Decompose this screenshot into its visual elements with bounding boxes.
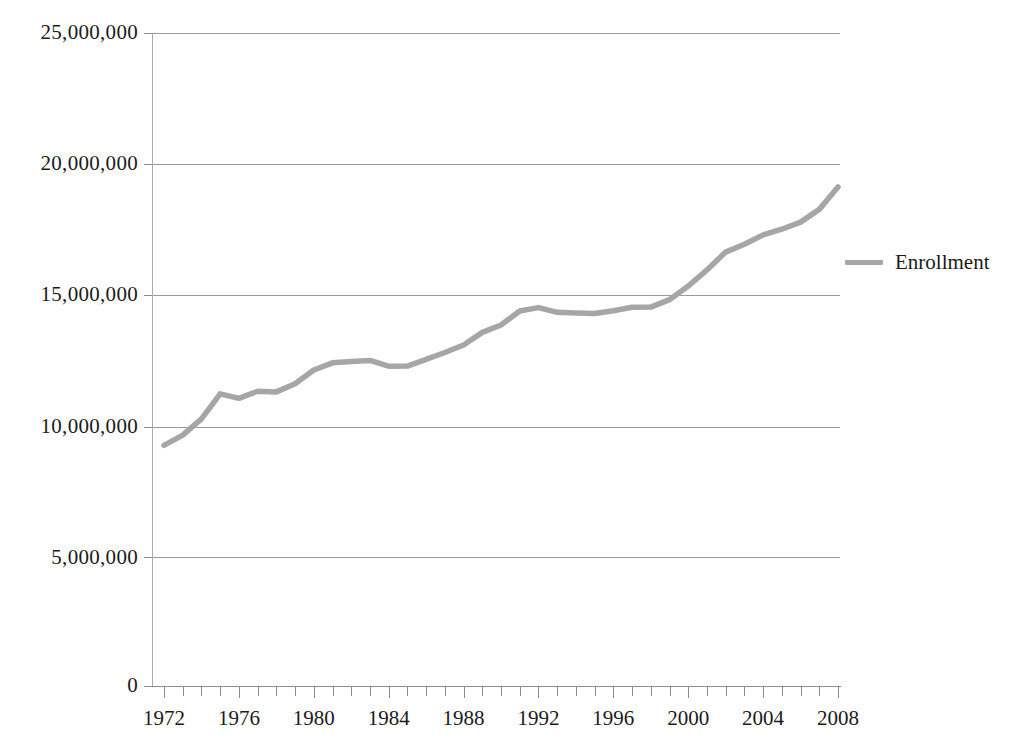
x-tick-mark-1985 [407,687,408,696]
x-tick-label-2004: 2004 [742,706,784,730]
x-tick-mark-1976 [239,687,240,698]
x-tick-mark-1991 [520,687,521,696]
x-tick-mark-1984 [389,687,390,698]
x-tick-label-1988: 1988 [443,706,485,730]
gridline-15000000 [152,295,840,296]
gridline-5000000 [152,557,840,558]
x-tick-label-2000: 2000 [667,706,709,730]
x-tick-mark-1979 [295,687,296,696]
y-tick-mark-5000000 [144,557,152,558]
x-tick-mark-2007 [819,687,820,696]
x-tick-mark-2000 [688,687,689,698]
x-tick-mark-1996 [613,687,614,698]
y-tick-mark-20000000 [144,164,152,165]
gridline-25000000 [152,33,840,34]
x-tick-mark-1978 [276,687,277,696]
x-tick-mark-1988 [464,687,465,698]
x-tick-mark-1972 [164,687,165,698]
chart-legend: Enrollment [845,252,989,273]
x-tick-label-1976: 1976 [218,706,260,730]
y-tick-mark-15000000 [144,295,152,296]
x-tick-mark-1995 [595,687,596,696]
x-tick-label-1972: 1972 [143,706,185,730]
x-tick-mark-1992 [538,687,539,698]
y-tick-label-5000000: 5,000,000 [51,547,138,568]
y-tick-label-15000000: 15,000,000 [41,284,139,305]
x-tick-mark-1986 [426,687,427,696]
gridline-10000000 [152,427,840,428]
x-tick-mark-1997 [632,687,633,696]
y-tick-label-0: 0 [127,675,138,696]
x-tick-mark-1990 [501,687,502,696]
x-tick-mark-1993 [557,687,558,696]
x-tick-mark-2001 [707,687,708,696]
x-tick-mark-2003 [744,687,745,696]
y-tick-mark-25000000 [144,33,152,34]
x-tick-mark-2002 [726,687,727,696]
x-tick-label-1980: 1980 [293,706,335,730]
x-tick-mark-1977 [258,687,259,696]
enrollment-line-chart: 25,000,000 20,000,000 15,000,000 10,000,… [0,0,1023,753]
x-tick-label-1992: 1992 [517,706,559,730]
x-tick-label-2008: 2008 [817,706,859,730]
x-tick-mark-1980 [314,687,315,698]
x-tick-label-1996: 1996 [592,706,634,730]
y-axis-tick-labels: 25,000,000 20,000,000 15,000,000 10,000,… [0,0,138,753]
x-tick-mark-2008 [838,687,839,698]
x-tick-mark-2006 [801,687,802,696]
y-tick-mark-0 [144,686,152,687]
x-tick-mark-1975 [220,687,221,696]
y-axis-line [152,33,153,686]
y-tick-label-20000000: 20,000,000 [41,153,139,174]
x-tick-mark-2005 [782,687,783,696]
x-tick-label-1984: 1984 [368,706,410,730]
x-tick-mark-1974 [201,687,202,696]
x-tick-mark-2004 [763,687,764,698]
x-tick-mark-1999 [670,687,671,696]
y-tick-mark-10000000 [144,427,152,428]
y-tick-label-10000000: 10,000,000 [41,416,139,437]
x-tick-mark-1987 [445,687,446,696]
gridline-20000000 [152,164,840,165]
y-tick-label-25000000: 25,000,000 [41,22,139,43]
x-tick-mark-1981 [333,687,334,696]
x-tick-mark-1998 [651,687,652,696]
x-axis-line [152,686,841,687]
x-tick-mark-1989 [482,687,483,696]
x-tick-mark-1994 [576,687,577,696]
x-tick-mark-1973 [183,687,184,696]
x-tick-mark-1982 [351,687,352,696]
x-tick-mark-1983 [370,687,371,696]
legend-label-enrollment: Enrollment [895,252,989,273]
plot-area [152,33,840,686]
legend-swatch-enrollment [845,260,883,265]
